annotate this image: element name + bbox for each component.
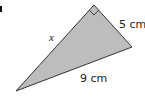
- side-label-5cm: 5 cm: [119, 18, 145, 31]
- triangle-shape: [16, 5, 132, 91]
- side-label-9cm: 9 cm: [80, 72, 107, 85]
- cut-off-label-mark: [0, 6, 2, 12]
- triangle-diagram: x 5 cm 9 cm: [0, 0, 145, 107]
- side-label-x: x: [48, 31, 54, 43]
